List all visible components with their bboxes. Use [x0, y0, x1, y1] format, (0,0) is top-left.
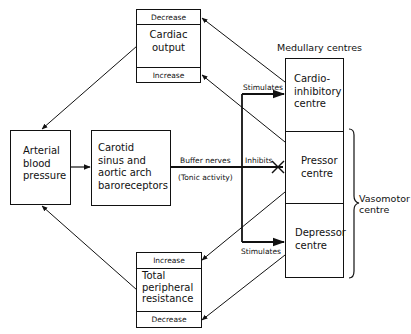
medullary-centres-title: Medullary centres [277, 42, 362, 55]
inhibits-label: Inhibits [245, 156, 273, 165]
tonic-activity-label: (Tonic activity) [178, 173, 233, 182]
total-peripheral-resistance-box: Increase Total peripheral resistance Dec… [136, 252, 202, 328]
tpr-increase: Increase [137, 253, 201, 269]
cardiac-output-label: Cardiac output [137, 29, 200, 54]
arterial-blood-pressure-box: Arterial blood pressure [10, 130, 71, 205]
pressor-centre: Pressor centre [286, 132, 343, 204]
stimulates-bottom-label: Stimulates [241, 247, 281, 256]
tpr-decrease: Decrease [137, 311, 201, 327]
stimulates-top-label: Stimulates [243, 83, 283, 92]
arterial-blood-pressure-label: Arterial blood pressure [23, 145, 66, 183]
arrow-tpr-to-arterial [42, 206, 137, 290]
tpr-label: Total peripheral resistance [142, 270, 201, 305]
vasomotor-centre-label: Vasomotor centre [359, 193, 410, 215]
arrow-cardioinhibitory-to-co-decrease [202, 18, 285, 82]
depressor-centre: Depressor centre [286, 204, 343, 277]
arrow-cardiac-to-arterial [42, 46, 137, 129]
cardiac-output-box: Decrease Cardiac output Increase [136, 9, 201, 83]
medullary-centres-box: Cardio- inhibitory centre Pressor centre… [285, 58, 344, 278]
buffer-nerves-label: Buffer nerves [180, 156, 231, 165]
baroreceptors-label: Carotid sinus and aortic arch barorecept… [98, 142, 168, 192]
cardiac-output-decrease: Decrease [137, 10, 200, 25]
cardio-inhibitory-centre: Cardio- inhibitory centre [286, 59, 343, 132]
arrow-depressor-to-tpr-decrease [202, 255, 285, 320]
vasomotor-brace [349, 129, 359, 278]
cardiac-output-increase: Increase [137, 67, 200, 82]
baroreceptors-box: Carotid sinus and aortic arch barorecept… [91, 130, 171, 206]
